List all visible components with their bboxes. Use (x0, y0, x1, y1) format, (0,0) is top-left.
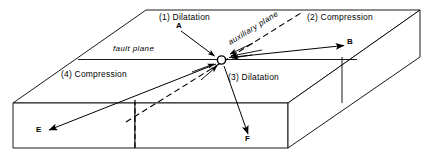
label-fault-plane: fault plane (113, 45, 154, 53)
focus-marker-icon (217, 56, 225, 64)
label-quadrant-1: (1) Dilatation (159, 13, 210, 22)
block-front-face-left (13, 103, 135, 148)
label-axis-f: F (245, 135, 250, 143)
block-front-face-right (135, 103, 288, 148)
fault-plane-block-diagram: (1) Dilatation (2) Compression (3) Dilat… (0, 0, 433, 158)
diagram-canvas (0, 0, 433, 158)
label-quadrant-4: (4) Compression (61, 70, 127, 79)
label-axis-e: E (36, 126, 42, 134)
label-quadrant-3: (3) Dilatation (228, 73, 279, 82)
label-axis-a: A (176, 22, 182, 30)
label-quadrant-2: (2) Compression (307, 13, 373, 22)
label-axis-b: B (347, 38, 353, 46)
block-outline (13, 10, 420, 148)
